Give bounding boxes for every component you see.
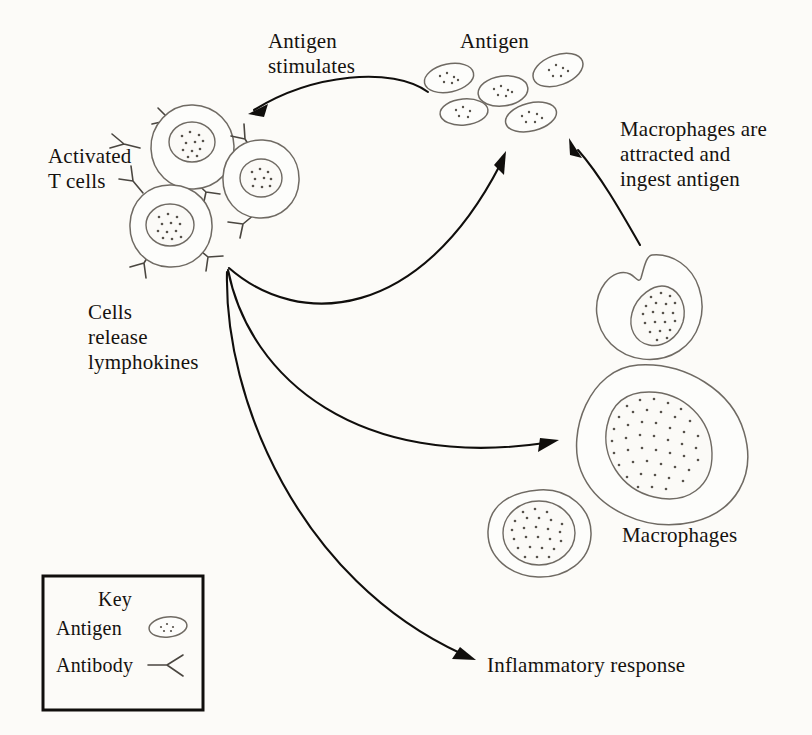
immune-response-diagram: Antigenstimulates Antigen Macrophages ar… [0,0,812,735]
key-item-antigen-label: Antigen [56,616,122,641]
activated-t-cells-label: ActivatedT cells [48,144,131,194]
activated-t-cells-line1: Activated [48,144,131,168]
macrophages-attracted-line1: Macrophages are [620,117,767,141]
key-item-antibody-label: Antibody [56,653,133,678]
macrophages-attracted-label: Macrophages areattracted andingest antig… [620,117,767,192]
cells-release-lymphokines-label: Cellsreleaselymphokines [88,300,199,375]
activated-t-cells-line2: T cells [48,169,106,193]
antigen-pool-label: Antigen [460,29,529,54]
antigen-stimulates-line1: Antigen [268,29,337,53]
macrophages-label: Macrophages [622,523,737,548]
key-title: Key [98,587,132,612]
macrophages-attracted-line3: ingest antigen [620,167,740,191]
key-antibody-swatch [148,655,183,676]
inflammatory-response-label: Inflammatory response [487,653,685,678]
cells-release-line1: Cells [88,300,132,324]
antigen-stimulates-line2: stimulates [268,54,355,78]
key-antigen-swatch [148,615,188,639]
antigen-stimulates-label: Antigenstimulates [268,29,355,79]
cells-release-line2: release [88,325,148,349]
cells-release-line3: lymphokines [88,350,199,374]
macrophages-attracted-line2: attracted and [620,142,730,166]
